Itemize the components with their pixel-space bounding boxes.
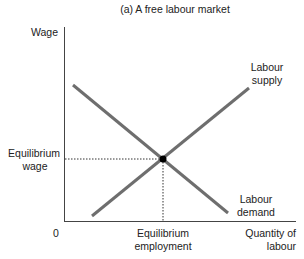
equilibrium-wage-label: Equilibrium wage	[2, 147, 60, 172]
equilibrium-employment-line1: Equilibrium	[128, 227, 198, 240]
labour-supply-label: Labour supply	[245, 61, 289, 86]
origin-label: 0	[53, 227, 59, 240]
x-axis-label: Quantity of labour	[236, 227, 296, 252]
equilibrium-point	[160, 156, 167, 163]
labour-supply-curve	[92, 88, 249, 216]
chart-canvas	[0, 0, 304, 259]
chart-title: (a) A free labour market	[115, 3, 235, 16]
labour-demand-line2: demand	[234, 206, 278, 219]
labour-demand-curve	[73, 85, 228, 213]
equilibrium-wage-line2: wage	[2, 160, 60, 173]
equilibrium-employment-label: Equilibrium employment	[128, 227, 198, 252]
equilibrium-wage-line1: Equilibrium	[2, 147, 60, 160]
x-axis-label-line2: labour	[236, 240, 296, 253]
equilibrium-employment-line2: employment	[128, 240, 198, 253]
labour-supply-line2: supply	[245, 74, 289, 87]
y-axis-label: Wage	[20, 26, 58, 39]
labour-supply-line1: Labour	[245, 61, 289, 74]
x-axis-label-line1: Quantity of	[236, 227, 296, 240]
labour-demand-label: Labour demand	[234, 193, 278, 218]
labour-demand-line1: Labour	[234, 193, 278, 206]
